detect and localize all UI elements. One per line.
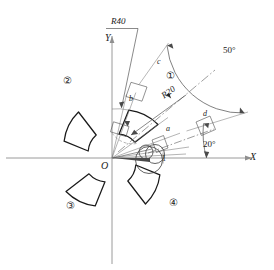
dim-label-50deg: 50°: [223, 46, 236, 55]
point-label-c: c: [157, 58, 161, 66]
sector-2-outline: [64, 112, 96, 151]
dim-50deg-ext-end: [187, 112, 249, 131]
sector-1: [119, 110, 158, 142]
dim-label-20deg: 20°: [203, 140, 216, 149]
sector-2: [64, 112, 96, 151]
dim-50deg-arrow-end: [240, 108, 245, 114]
dim-50deg-ext-start: [139, 43, 169, 85]
origin-label: O: [101, 161, 108, 171]
origin-arrow-flat: [113, 158, 150, 162]
cad-drawing-svg: [0, 0, 274, 270]
radial-aux-2: [112, 95, 127, 159]
sector-1-outline: [119, 110, 158, 142]
outer-arc-construction: [112, 109, 129, 110]
dim-50deg: [139, 43, 248, 131]
dim-20deg-arrow-end: [204, 151, 209, 158]
sector-label-1: ①: [166, 71, 175, 81]
radial-aux-4: [112, 154, 186, 158]
radial-aux-3: [112, 147, 189, 158]
point-label-d: d: [203, 110, 207, 118]
dim-50deg-arrow-start: [167, 44, 173, 49]
sector-label-4: ④: [169, 198, 178, 208]
dim-50deg-arc: [167, 46, 245, 114]
sector-4-outline: [128, 165, 160, 204]
sector-label-2: ②: [63, 76, 72, 86]
technical-drawing-canvas: Y X O R40 R20 50° 20° a b c d 1 ① ② ③ ④: [0, 0, 274, 270]
edge-box-a: [152, 136, 168, 153]
dim-label-r40: R40: [111, 17, 126, 26]
point-label-a: a: [166, 125, 170, 133]
sector-4: [128, 165, 160, 204]
sector-label-3: ③: [66, 201, 75, 211]
x-axis-label: X: [250, 152, 256, 162]
dim-r20-leader: [131, 95, 186, 135]
y-axis-label: Y: [105, 33, 111, 43]
point-label-one: 1: [162, 155, 166, 163]
radial-20deg: [112, 133, 180, 158]
dim-r20: [131, 95, 186, 135]
outer-arc-extension: [112, 109, 129, 110]
point-label-b: b: [129, 95, 133, 103]
origin-detail-circles: [113, 145, 165, 174]
